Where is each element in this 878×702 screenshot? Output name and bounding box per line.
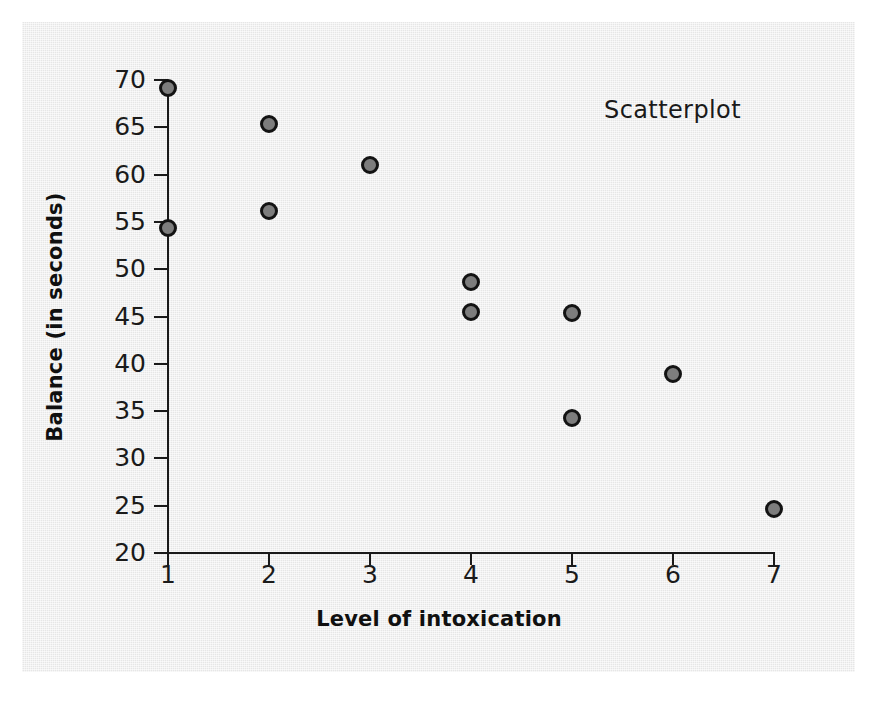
y-tick-mark <box>154 457 168 459</box>
y-tick-mark <box>154 268 168 270</box>
x-tick-label: 1 <box>148 562 188 587</box>
data-point <box>563 409 581 427</box>
y-tick-mark <box>154 505 168 507</box>
data-point <box>260 202 278 220</box>
y-tick-label: 70 <box>98 67 146 93</box>
y-tick-mark <box>154 174 168 176</box>
y-tick-label-text: 25 <box>100 493 146 518</box>
y-tick-label-text: 65 <box>100 114 146 139</box>
x-tick-label: 3 <box>350 562 390 587</box>
y-tick-label: 25 <box>98 493 146 519</box>
y-tick-label: 65 <box>98 114 146 140</box>
data-point <box>563 304 581 322</box>
y-tick-label-text: 70 <box>100 67 146 92</box>
y-tick-label-text: 55 <box>100 209 146 234</box>
y-tick-label-text: 50 <box>100 256 146 281</box>
y-tick-label-text: 40 <box>100 351 146 376</box>
x-tick-label: 4 <box>451 562 491 587</box>
y-tick-label: 40 <box>98 351 146 377</box>
y-tick-label-text: 45 <box>100 304 146 329</box>
y-tick-label: 45 <box>98 304 146 330</box>
x-tick-label: 7 <box>754 562 794 587</box>
y-tick-mark <box>154 316 168 318</box>
plot-area: 2025303540455055606570 1234567 Scatterpl… <box>0 0 878 702</box>
y-tick-label: 20 <box>98 540 146 566</box>
y-tick-label: 55 <box>98 209 146 235</box>
data-point <box>462 303 480 321</box>
y-tick-mark <box>154 126 168 128</box>
x-axis-label: Level of intoxication <box>0 607 878 631</box>
y-tick-mark <box>154 363 168 365</box>
x-tick-label: 6 <box>653 562 693 587</box>
data-point <box>765 500 783 518</box>
y-tick-label-text: 20 <box>100 540 146 565</box>
data-point <box>664 365 682 383</box>
y-axis-label: Balance (in seconds) <box>43 157 67 477</box>
y-tick-label-text: 35 <box>100 398 146 423</box>
scatterplot-figure: 2025303540455055606570 1234567 Scatterpl… <box>0 0 878 702</box>
y-tick-label: 60 <box>98 162 146 188</box>
y-tick-label: 30 <box>98 445 146 471</box>
y-tick-label-text: 30 <box>100 445 146 470</box>
y-tick-mark <box>154 552 168 554</box>
x-tick-label: 5 <box>552 562 592 587</box>
data-point <box>159 79 177 97</box>
chart-annotation-scatterplot: Scatterplot <box>604 96 741 124</box>
y-tick-label: 50 <box>98 256 146 282</box>
data-point <box>260 115 278 133</box>
y-tick-label-text: 60 <box>100 162 146 187</box>
data-point <box>361 156 379 174</box>
y-tick-mark <box>154 410 168 412</box>
data-point <box>462 273 480 291</box>
y-tick-label: 35 <box>98 398 146 424</box>
data-point <box>159 219 177 237</box>
x-tick-label: 2 <box>249 562 289 587</box>
